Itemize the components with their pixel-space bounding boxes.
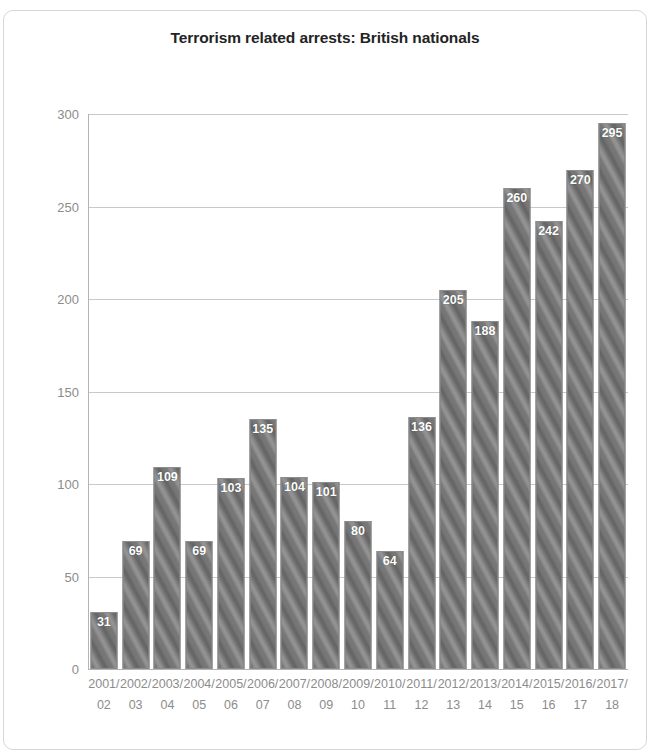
bar-slot: 136 (406, 114, 438, 669)
bar-value-label: 136 (409, 420, 434, 434)
bar[interactable]: 69 (122, 541, 149, 669)
bar-slot: 109 (152, 114, 184, 669)
x-tick-label: 2012/13 (437, 674, 469, 716)
y-tick-label: 200 (57, 292, 79, 307)
bar[interactable]: 242 (535, 221, 562, 669)
bar-value-label: 64 (377, 554, 402, 568)
y-tick-label: 250 (57, 199, 79, 214)
x-tick-label: 2003/04 (152, 674, 184, 716)
bar[interactable]: 103 (217, 478, 244, 669)
bar-slot: 260 (501, 114, 533, 669)
bar[interactable]: 80 (344, 521, 371, 669)
bar-value-label: 31 (91, 615, 116, 629)
bar-slot: 104 (279, 114, 311, 669)
bar[interactable]: 69 (186, 541, 213, 669)
chart-title: Terrorism related arrests: British natio… (0, 29, 650, 47)
x-tick-label: 2008/09 (310, 674, 342, 716)
bar[interactable]: 101 (313, 482, 340, 669)
bar-slot: 188 (469, 114, 501, 669)
x-tick-label: 2004/05 (183, 674, 215, 716)
bar-value-label: 109 (155, 470, 180, 484)
bar-slot: 205 (437, 114, 469, 669)
bar-slot: 295 (596, 114, 628, 669)
x-axis-tick-labels: 2001/022002/032003/042004/052005/062006/… (88, 674, 628, 726)
x-tick-label: 2001/02 (88, 674, 120, 716)
y-tick-label: 50 (65, 569, 79, 584)
bar[interactable]: 31 (90, 612, 117, 669)
y-tick-label: 100 (57, 477, 79, 492)
bar-slot: 270 (564, 114, 596, 669)
bar-value-label: 135 (250, 422, 275, 436)
bar-value-label: 295 (600, 126, 625, 140)
bar-value-label: 69 (123, 544, 148, 558)
bar-slot: 80 (342, 114, 374, 669)
x-tick-label: 2002/03 (120, 674, 152, 716)
bar-value-label: 188 (473, 324, 498, 338)
x-tick-label: 2010/11 (374, 674, 406, 716)
bar-slot: 135 (247, 114, 279, 669)
bar[interactable]: 104 (281, 477, 308, 669)
bar-slot: 103 (215, 114, 247, 669)
bar[interactable]: 64 (376, 551, 403, 669)
bar[interactable]: 188 (472, 321, 499, 669)
bars-layer: 3169109691031351041018064136205188260242… (88, 114, 628, 669)
x-tick-label: 2009/10 (342, 674, 374, 716)
bar-value-label: 205 (441, 293, 466, 307)
bar-value-label: 242 (536, 224, 561, 238)
x-tick-label: 2005/06 (215, 674, 247, 716)
bar-slot: 31 (88, 114, 120, 669)
y-tick-label: 300 (57, 107, 79, 122)
y-tick-label: 0 (72, 662, 79, 677)
bar[interactable]: 136 (408, 417, 435, 669)
x-tick-label: 2014/15 (501, 674, 533, 716)
bar-value-label: 101 (314, 485, 339, 499)
y-tick-label: 150 (57, 384, 79, 399)
x-tick-label: 2017/18 (596, 674, 628, 716)
bar[interactable]: 295 (599, 123, 626, 669)
x-tick-label: 2006/07 (247, 674, 279, 716)
bar-value-label: 103 (218, 481, 243, 495)
bar-slot: 69 (183, 114, 215, 669)
x-tick-label: 2007/08 (279, 674, 311, 716)
bar-value-label: 69 (187, 544, 212, 558)
x-tick-label: 2015/16 (533, 674, 565, 716)
bar[interactable]: 260 (503, 188, 530, 669)
bar-value-label: 80 (345, 524, 370, 538)
bar-slot: 101 (310, 114, 342, 669)
bar-value-label: 104 (282, 480, 307, 494)
bar-value-label: 270 (568, 173, 593, 187)
x-tick-label: 2013/14 (469, 674, 501, 716)
y-axis-tick-labels: 050100150200250300 (0, 0, 79, 733)
bar[interactable]: 205 (440, 290, 467, 669)
bar-value-label: 260 (504, 191, 529, 205)
bar[interactable]: 270 (567, 170, 594, 670)
bar[interactable]: 135 (249, 419, 276, 669)
bar-slot: 242 (533, 114, 565, 669)
x-tick-label: 2016/17 (564, 674, 596, 716)
bar[interactable]: 109 (154, 467, 181, 669)
x-axis-line (88, 669, 628, 670)
bar-slot: 69 (120, 114, 152, 669)
bar-slot: 64 (374, 114, 406, 669)
x-tick-label: 2011/12 (406, 674, 438, 716)
